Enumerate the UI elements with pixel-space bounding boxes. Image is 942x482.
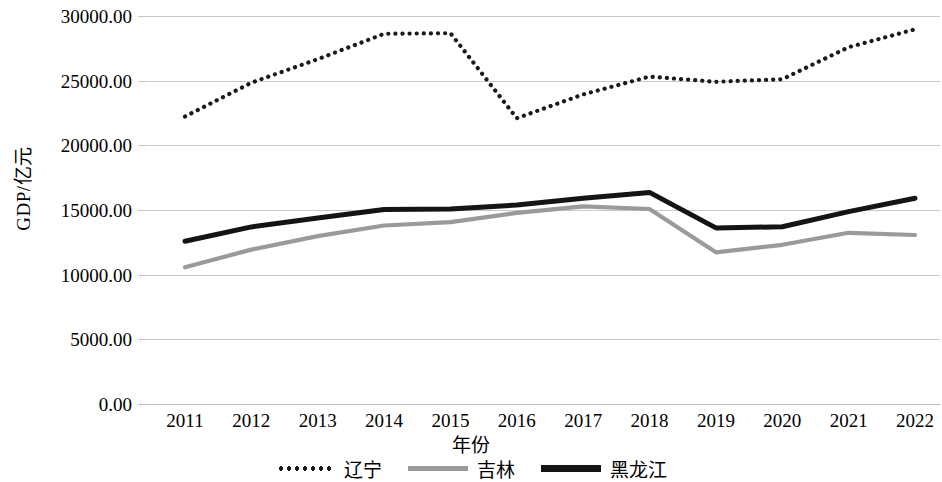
legend-label: 辽宁 <box>344 455 382 482</box>
series-line-吉林 <box>185 206 915 267</box>
y-tick-label: 15000.00 <box>22 201 132 220</box>
legend-item[interactable]: 黑龙江 <box>541 455 667 482</box>
y-tick-label: 10000.00 <box>22 265 132 284</box>
legend-label: 吉林 <box>477 455 515 482</box>
plot-area <box>138 0 940 410</box>
series-layer <box>138 0 940 410</box>
legend-item[interactable]: 吉林 <box>408 455 515 482</box>
y-tick-label: 5000.00 <box>22 330 132 349</box>
y-tick-label: 0.00 <box>22 395 132 414</box>
chart-legend: 辽宁吉林黑龙江 <box>0 455 942 482</box>
series-line-黑龙江 <box>185 192 915 241</box>
legend-swatch-icon <box>275 466 335 471</box>
y-axis-tick-labels: 0.005000.0010000.0015000.0020000.0025000… <box>22 0 132 482</box>
series-line-辽宁 <box>185 29 915 118</box>
legend-swatch-icon <box>408 466 468 471</box>
legend-swatch-icon <box>541 465 601 472</box>
legend-item[interactable]: 辽宁 <box>275 455 382 482</box>
y-tick-label: 25000.00 <box>22 71 132 90</box>
gdp-line-chart: GDP/亿元 0.005000.0010000.0015000.0020000.… <box>0 0 942 482</box>
y-tick-label: 20000.00 <box>22 136 132 155</box>
x-axis-title: 年份 <box>0 430 942 457</box>
y-tick-label: 30000.00 <box>22 7 132 26</box>
legend-label: 黑龙江 <box>610 455 667 482</box>
